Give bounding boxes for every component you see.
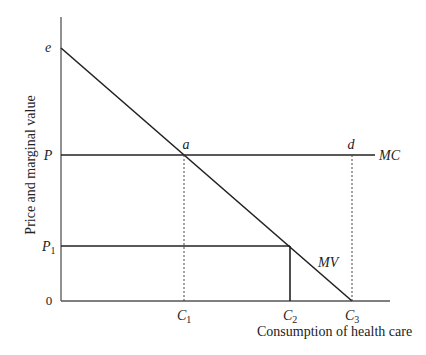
label-p1: P1 <box>41 239 56 256</box>
label-c1: C1 <box>177 308 191 325</box>
label-e: e <box>45 40 51 55</box>
label-p: P <box>43 148 53 163</box>
label-c2: C2 <box>283 308 297 325</box>
label-mv: MV <box>317 255 340 270</box>
label-zero: 0 <box>46 293 53 308</box>
label-c1-sub: 1 <box>186 314 191 325</box>
label-a: a <box>183 137 190 152</box>
label-mc: MC <box>378 148 401 163</box>
label-d: d <box>348 137 356 152</box>
diagram-canvas: Price and marginal value e P P1 0 a d MC… <box>0 0 426 355</box>
x-axis-label: Consumption of health care <box>257 324 412 339</box>
y-axis-label: Price and marginal value <box>23 95 38 234</box>
label-p1-main: P <box>41 239 51 254</box>
label-c3: C3 <box>345 308 359 325</box>
label-p1-sub: 1 <box>51 245 56 256</box>
mv-curve <box>61 48 352 301</box>
